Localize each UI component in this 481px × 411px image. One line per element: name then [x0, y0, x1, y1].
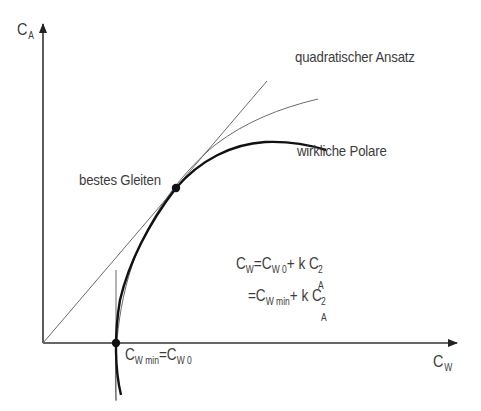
tangent-line — [43, 81, 267, 343]
drag-polar-diagram: CA CW quadratischer Ansatz wirkliche Pol… — [0, 0, 481, 411]
formula-line-1: CW=CW 0+ k C2A — [236, 253, 330, 281]
quadratic-approach-label: quadratischer Ansatz — [295, 48, 415, 65]
x-axis-label: CW — [433, 352, 452, 373]
drag-polar-formula: CW=CW 0+ k C2A =CW min+ k C2A — [236, 253, 330, 313]
cwmin-label: CW min=CW 0 — [125, 344, 192, 372]
best-glide-label: bestes Gleiten — [79, 171, 161, 188]
y-axis-label: CA — [17, 20, 34, 41]
real-polar-label: wirkliche Polare — [297, 142, 387, 159]
best-glide-point — [172, 184, 180, 192]
cwmin-point — [112, 339, 120, 347]
